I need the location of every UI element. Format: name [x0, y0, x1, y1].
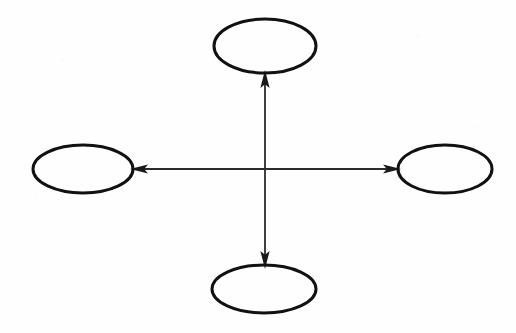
ellipse-node-top[interactable]	[214, 19, 316, 73]
ellipse-node-right[interactable]	[398, 145, 492, 193]
diagram-canvas	[0, 0, 516, 333]
ellipse-node-left[interactable]	[33, 145, 133, 193]
ellipse-node-bottom[interactable]	[212, 265, 316, 313]
diagram-figure	[0, 0, 516, 333]
